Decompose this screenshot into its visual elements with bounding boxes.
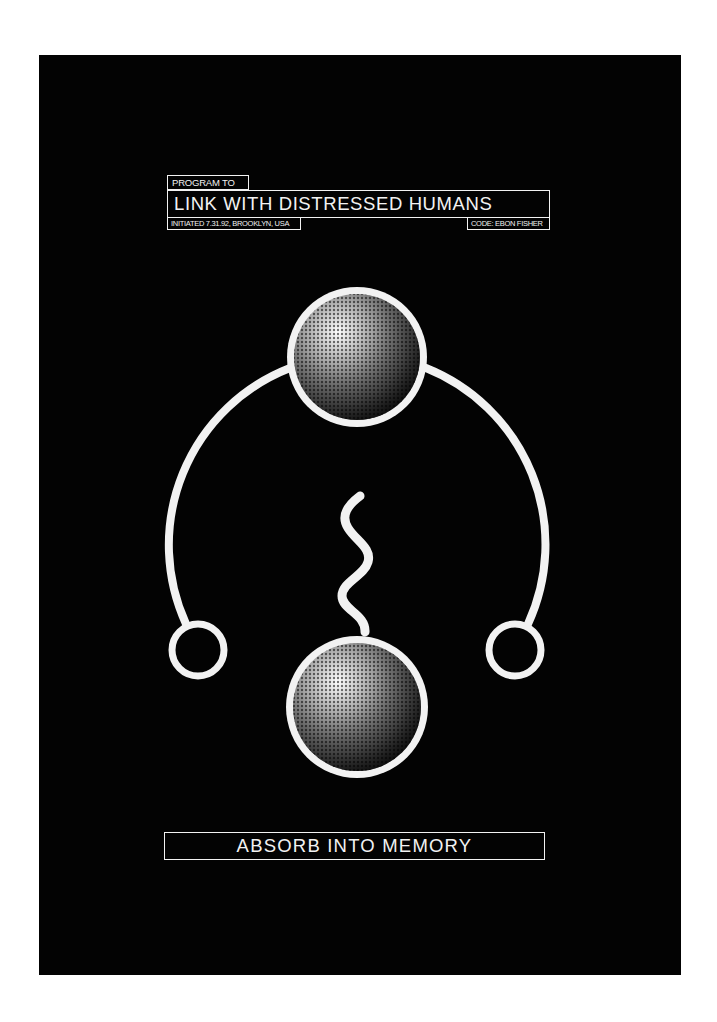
top-sphere-icon [287, 287, 427, 427]
arc-connector [169, 368, 290, 624]
bottom-sphere-icon [286, 636, 428, 778]
arc-connector-right [426, 368, 545, 624]
main-title: LINK WITH DISTRESSED HUMANS [167, 190, 550, 218]
pre-title-label: PROGRAM TO [167, 175, 249, 190]
initiated-label: INITIATED 7.31.92, BROOKLYN, USA [167, 217, 301, 230]
diagram-graphic [0, 0, 717, 1022]
code-label: CODE: EBON FISHER [467, 217, 550, 230]
left-node-ring-icon [172, 624, 224, 676]
absorb-into-memory-label: ABSORB INTO MEMORY [164, 832, 545, 860]
squiggle-link-icon [342, 496, 369, 632]
right-node-ring-icon [489, 624, 541, 676]
